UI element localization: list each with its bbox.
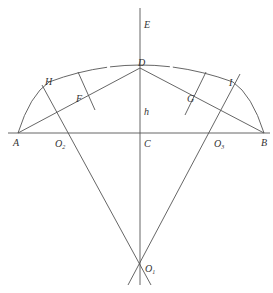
bisector-f [78, 72, 95, 110]
label-o3: O3 [214, 138, 224, 150]
label-g: G [187, 93, 194, 104]
label-o2: O2 [55, 138, 65, 150]
label-o1: O1 [145, 263, 155, 275]
label-d: D [137, 57, 146, 68]
construction-diagram: E D H F G I h A C B O2 O3 O1 [0, 0, 273, 293]
label-f: F [75, 93, 83, 104]
label-e: E [143, 19, 150, 30]
label-h-height: h [144, 106, 149, 117]
line-h-o1 [42, 85, 151, 285]
chord-db [140, 68, 264, 133]
label-h: H [44, 76, 53, 87]
label-c: C [144, 138, 151, 149]
label-i: I [228, 77, 233, 88]
label-a: A [12, 137, 20, 148]
label-b: B [261, 137, 267, 148]
